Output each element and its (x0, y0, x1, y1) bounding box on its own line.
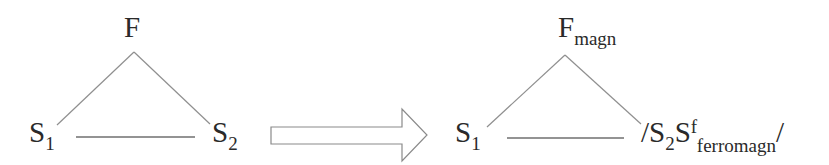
right-node-s2-label: /S2Sfferromagn/ (641, 118, 784, 147)
left-apex-label: F (124, 13, 140, 42)
node-base: S (649, 116, 665, 148)
left-edge-f-s2 (134, 52, 210, 124)
apex-base: F (558, 11, 574, 43)
right-arrow-icon (271, 109, 427, 161)
node-base: S (29, 116, 45, 148)
node-subscript: 2 (228, 133, 238, 154)
node-suffix: / (776, 116, 784, 148)
node-base: S (455, 116, 471, 148)
node-subscript: 1 (45, 133, 55, 154)
apex-base: F (124, 11, 140, 43)
right-edge-f-s1 (487, 55, 565, 127)
node-base2: S (675, 116, 691, 148)
node-subscript: 2 (665, 133, 675, 154)
left-node-s1-label: S1 (29, 118, 55, 147)
left-node-s2-label: S2 (212, 118, 238, 147)
right-apex-label: Fmagn (558, 13, 616, 42)
right-node-s1-label: S1 (455, 118, 481, 147)
node-subscript: 1 (471, 133, 481, 154)
apex-subscript: magn (574, 28, 616, 49)
left-edge-f-s1 (57, 52, 134, 125)
node-prefix: / (641, 116, 649, 148)
node-superscript: f (691, 116, 697, 137)
node-subscript2: ferromagn (697, 135, 776, 156)
right-edge-f-s2 (565, 55, 641, 124)
node-base: S (212, 116, 228, 148)
